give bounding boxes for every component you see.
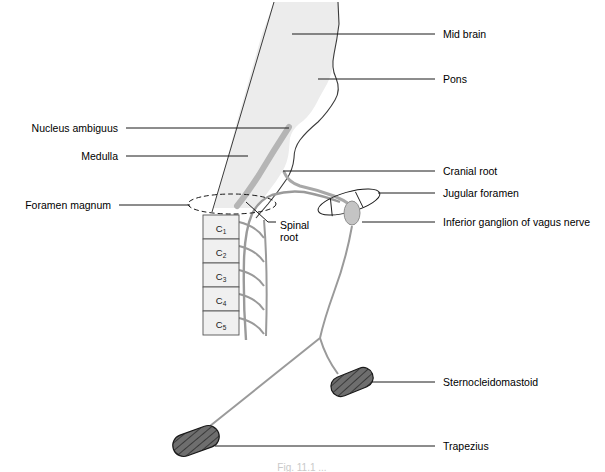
- anatomical-figure: C1 C2 C3 C4 C5: [0, 0, 605, 472]
- nerve-branch-to-scm: [320, 338, 338, 374]
- label-mid-brain: Mid brain: [443, 28, 486, 40]
- cranial-root-nerve: [284, 172, 352, 206]
- label-inferior-ganglion: Inferior ganglion of vagus nerve: [443, 216, 590, 228]
- diagram-canvas: C1 C2 C3 C4 C5: [0, 0, 605, 472]
- vertebral-column: C1 C2 C3 C4 C5: [203, 215, 239, 335]
- label-medulla: Medulla: [81, 150, 118, 162]
- label-cranial-root: Cranial root: [443, 165, 497, 177]
- label-trapezius: Trapezius: [443, 440, 489, 452]
- trapezius-muscle: [170, 422, 223, 459]
- inferior-ganglion-shape: [344, 201, 360, 225]
- cervical-cord-right-edge: [264, 220, 267, 336]
- figure-caption: Fig. 11.1 ...: [277, 462, 326, 472]
- accessory-nerve-descending: [320, 226, 352, 338]
- label-pons: Pons: [443, 73, 467, 85]
- label-jugular-foramen: Jugular foramen: [443, 187, 519, 199]
- label-spinal-root-line1: Spinal: [280, 219, 309, 231]
- label-spinal-root-line2: root: [280, 231, 298, 243]
- label-foramen-magnum: Foramen magnum: [25, 199, 111, 211]
- label-nucleus-ambiguus: Nucleus ambiguus: [32, 122, 118, 134]
- nerve-branch-to-trapezius: [200, 338, 320, 434]
- label-sternocleidomastoid: Sternocleidomastoid: [443, 376, 538, 388]
- brainstem-shape: [214, 2, 339, 208]
